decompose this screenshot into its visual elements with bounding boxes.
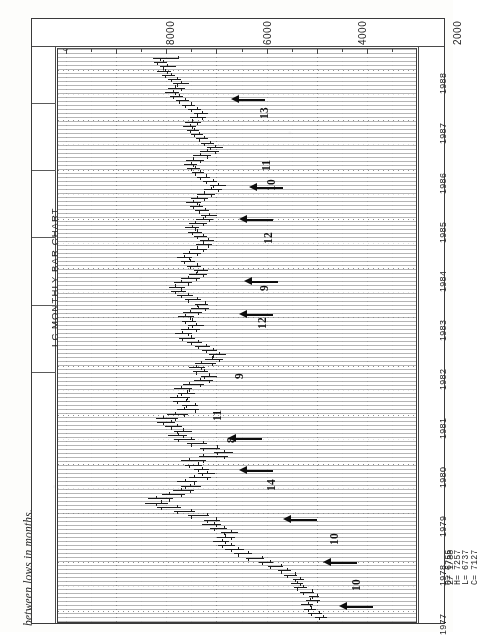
bar-close-tick [248,558,249,561]
bar-close-tick [205,215,206,218]
bar-close-tick [319,617,320,620]
bar-open-tick [205,301,206,304]
bar-range-line [187,443,207,444]
bar-open-tick [197,229,198,232]
axis-tick [267,49,268,54]
cycle-low-arrow [239,215,273,224]
bar-open-tick [163,416,164,419]
bar-open-tick [224,450,225,453]
cycle-low-arrow [323,558,357,567]
bar-range-line [209,354,226,355]
bar-open-tick [203,441,204,444]
bar-close-tick [181,494,182,497]
bar-open-tick [219,352,220,355]
axis-tick [166,49,167,54]
bar-open-tick [175,284,176,287]
arrow-shaft [246,219,273,221]
year-tick-label: 1984 [438,271,448,292]
gridline-vertical [116,49,117,622]
horizontal-gridlines [58,49,416,622]
bar-close-tick [188,333,189,336]
arrow-head [239,466,247,474]
bar-close-tick [157,62,158,65]
bar-open-tick [204,369,205,372]
bar-open-tick [161,500,162,503]
bar-open-tick [181,280,182,283]
bar-close-tick [183,435,184,438]
bar-range-line [154,62,167,63]
bar-open-tick [203,454,204,457]
bar-close-tick [287,575,288,578]
gridline-horizontal [58,170,416,171]
year-tick-label: 1980 [438,467,448,488]
bar-range-line [191,308,209,309]
bar-close-tick [204,198,205,201]
bar-range-line [173,401,190,402]
gridline-horizontal-minor [58,341,416,342]
bar-open-tick [193,200,194,203]
bar-open-tick [197,246,198,249]
bar-close-tick [175,418,176,421]
bar-close-tick [213,354,214,357]
arrow-shaft [330,562,357,564]
bar-close-tick [191,515,192,518]
arrow-shaft [246,314,273,316]
bar-range-line [191,198,208,199]
bar-close-tick [217,452,218,455]
bar-close-tick [201,367,202,370]
cycle-low-arrow [249,183,283,192]
bar-open-tick [208,238,209,241]
bar-open-tick [202,467,203,470]
bar-close-tick [187,397,188,400]
bar-close-tick [224,532,225,535]
bar-open-tick [198,340,199,343]
bar-open-tick [187,390,188,393]
year-tick-label: 1987 [438,123,448,144]
bar-close-tick [199,138,200,141]
bar-close-tick [163,66,164,69]
bar-open-tick [231,530,232,533]
cycle-low-arrow [283,515,317,524]
bar-open-tick [171,73,172,76]
bar-open-tick [209,213,210,216]
bar-open-tick [181,81,182,84]
bar-close-tick [203,274,204,277]
bar-range-line [169,287,185,288]
bar-open-tick [179,94,180,97]
bar-range-line [162,75,175,76]
axis-tick [242,49,243,52]
bar-close-tick [197,122,198,125]
bar-open-tick [300,577,301,580]
bar-range-line [190,206,203,207]
bar-open-tick [200,153,201,156]
cycle-length-label: 13 [258,107,270,119]
bar-range-line [192,172,204,173]
bar-close-tick [303,592,304,595]
bar-close-tick [189,257,190,260]
bar-close-tick [192,325,193,328]
bar-range-line [168,88,185,89]
bar-close-tick [194,134,195,137]
bar-close-tick [212,363,213,366]
bar-open-tick [319,611,320,614]
axis-tick [317,49,318,54]
bar-open-tick [185,98,186,101]
top-tick-row [58,49,416,54]
bar-close-tick [186,405,187,408]
spine-tick [32,170,56,171]
bar-close-tick [177,83,178,86]
cycle-length-label: 9 [233,373,245,379]
cycle-length-label: 10 [350,579,362,591]
bar-close-tick [203,223,204,226]
bar-range-line [185,122,201,123]
bar-range-line [193,155,211,156]
bar-close-tick [198,346,199,349]
bar-close-tick [209,380,210,383]
bar-close-tick [191,109,192,112]
bar-open-tick [189,251,190,254]
bar-close-tick [203,460,204,463]
bar-range-line [197,194,215,195]
gridline-vertical [342,49,343,622]
gridline-horizontal [58,611,416,612]
